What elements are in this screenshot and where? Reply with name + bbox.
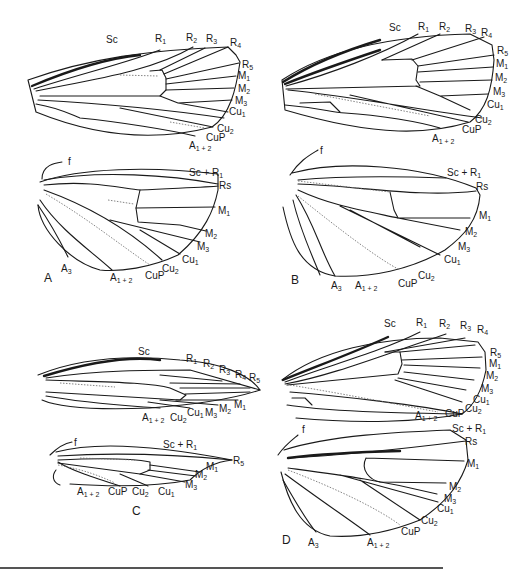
bottom-rule-divider	[0, 567, 443, 569]
label-a-cu1: Cu1	[229, 107, 246, 120]
label-c-r5h: R5	[233, 456, 244, 469]
label-a-a12: A1 + 2	[189, 141, 211, 154]
label-c-r4: R4	[235, 370, 246, 383]
label-d-sc: Sc	[384, 319, 396, 329]
label-c-m2: M2	[219, 404, 231, 417]
panel-letter-d: D	[282, 534, 291, 546]
panel-b-forewing	[282, 34, 494, 131]
label-a-sc: Sc	[106, 35, 118, 45]
label-c-hm1: M1	[206, 462, 218, 475]
label-b-cup: CuP	[462, 125, 481, 135]
label-b-scr1: Sc + R1	[447, 168, 481, 181]
label-a-rs: Rs	[219, 181, 231, 191]
label-d-hcup: CuP	[401, 527, 420, 537]
label-c-r1: R1	[186, 354, 197, 367]
label-c-ha12: A1 + 2	[77, 487, 99, 500]
label-a-hm2: M2	[205, 229, 217, 242]
label-d-hm1: M1	[467, 459, 479, 472]
label-d-cu2: Cu2	[465, 404, 482, 417]
label-b-f: f	[320, 146, 323, 156]
label-c-f: f	[74, 438, 77, 448]
label-a-r2: R2	[186, 33, 197, 46]
label-a-hm3: M3	[197, 242, 209, 255]
panel-d-hindwing	[278, 430, 468, 536]
label-b-r4: R4	[481, 28, 492, 41]
label-b-a12: A1 + 2	[432, 134, 454, 147]
panel-letter-a: A	[44, 272, 52, 284]
label-d-r3: R3	[460, 321, 471, 334]
label-b-ha12: A1 + 2	[355, 281, 377, 294]
label-b-r1: R1	[418, 22, 429, 35]
label-a-r1: R1	[155, 34, 166, 47]
label-b-m2: M2	[495, 73, 507, 86]
label-b-m1: M1	[496, 59, 508, 72]
label-c-hcu2: Cu2	[132, 487, 149, 500]
label-d-r1: R1	[416, 318, 427, 331]
label-b-ha3: A3	[331, 281, 342, 294]
label-d-f: f	[302, 425, 305, 435]
label-a-r3: R3	[206, 34, 217, 47]
label-c-scr1: Sc + R1	[163, 440, 197, 453]
label-d-a12: A1 + 2	[415, 411, 437, 424]
label-c-hcup: CuP	[108, 487, 127, 497]
label-a-hcu1: Cu1	[182, 255, 199, 268]
label-b-r3: R3	[465, 24, 476, 37]
label-c-hcu1: Cu1	[158, 487, 175, 500]
label-c-cu1: Cu1	[187, 408, 204, 421]
label-b-hcu2: Cu2	[418, 271, 435, 284]
panel-letter-c: C	[132, 505, 141, 517]
label-a-hcup: CuP	[145, 271, 164, 281]
panel-a-forewing	[28, 47, 240, 136]
label-a-ha12: A1 + 2	[110, 273, 132, 286]
label-a-hcu2: Cu2	[162, 264, 179, 277]
label-b-hm3: M3	[458, 242, 470, 255]
label-b-hcu1: Cu1	[444, 255, 461, 268]
label-b-cu1: Cu1	[487, 100, 504, 113]
label-c-cu2: Cu2	[170, 413, 187, 426]
label-a-r4: R4	[230, 38, 241, 51]
label-c-r3: R3	[219, 365, 230, 378]
label-b-r2: R2	[439, 22, 450, 35]
label-d-ha3: A3	[308, 538, 319, 551]
label-d-hcu1: Cu1	[437, 504, 454, 517]
label-d-cup: CuP	[445, 409, 464, 419]
label-d-r4: R4	[477, 325, 488, 338]
label-c-hm3: M3	[185, 480, 197, 493]
label-b-hm1: M1	[479, 211, 491, 224]
label-c-sc: Sc	[138, 347, 150, 357]
label-d-ha12: A1 + 2	[367, 538, 389, 551]
label-c-a12: A1 + 2	[142, 413, 164, 426]
label-c-m3: M3	[205, 408, 217, 421]
label-b-hcup: CuP	[398, 279, 417, 289]
label-c-m1: M1	[234, 400, 246, 413]
label-a-hm1: M1	[218, 206, 230, 219]
label-a-ha3: A3	[61, 264, 72, 277]
label-b-hm2: M2	[465, 227, 477, 240]
label-d-r2: R2	[439, 319, 450, 332]
label-a-f: f	[68, 157, 71, 167]
label-d-rs: Rs	[465, 437, 477, 447]
label-b-sc: Sc	[389, 23, 401, 33]
label-b-rs: Rs	[476, 182, 488, 192]
label-c-r5: R5	[249, 373, 260, 386]
label-c-r2: R2	[203, 359, 214, 372]
panel-letter-b: B	[291, 274, 299, 286]
label-d-hcu2: Cu2	[421, 516, 438, 529]
